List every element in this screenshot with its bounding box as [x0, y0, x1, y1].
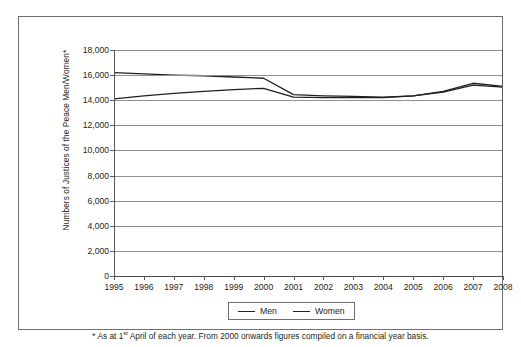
- y-tick-label: 8,000: [87, 171, 109, 181]
- line-swatch-icon: [293, 311, 310, 312]
- y-tick-label: 12,000: [83, 120, 109, 130]
- x-tick-label: 1995: [104, 282, 123, 292]
- gridline: [114, 50, 503, 51]
- gridline: [114, 226, 503, 227]
- x-tick-mark: [264, 276, 265, 280]
- x-tick-mark: [443, 276, 444, 280]
- x-tick-mark: [294, 276, 295, 280]
- x-tick-mark: [114, 276, 115, 280]
- x-tick-label: 2001: [284, 282, 303, 292]
- y-tick-label: 4,000: [87, 221, 109, 231]
- x-tick-label: 2000: [254, 282, 273, 292]
- x-tick-mark: [204, 276, 205, 280]
- plot-inner: 02,0004,0006,0008,00010,00012,00014,0001…: [114, 50, 503, 276]
- gridline: [114, 150, 503, 151]
- y-tick-label: 18,000: [83, 45, 109, 55]
- gridline: [114, 201, 503, 202]
- x-tick-mark: [234, 276, 235, 280]
- legend-label-men: Men: [260, 306, 277, 316]
- y-tick-label: 16,000: [83, 70, 109, 80]
- x-tick-label: 2008: [493, 282, 512, 292]
- legend-label-women: Women: [315, 306, 345, 316]
- chart-figure: Numbers of Justices of the Peace Men/Wom…: [0, 0, 521, 347]
- series-lines: [114, 50, 503, 276]
- gridline: [114, 176, 503, 177]
- x-tick-label: 2006: [434, 282, 453, 292]
- x-tick-label: 1996: [134, 282, 153, 292]
- x-tick-mark: [503, 276, 504, 280]
- gridline: [114, 251, 503, 252]
- x-tick-label: 2005: [404, 282, 423, 292]
- y-tick-label: 14,000: [83, 95, 109, 105]
- footnote-suffix: April of each year. From 2000 onwards fi…: [128, 331, 429, 341]
- footnote-prefix: * As at 1: [92, 331, 123, 341]
- chart-footnote: * As at 1st April of each year. From 200…: [19, 330, 502, 341]
- y-tick-label: 10,000: [83, 145, 109, 155]
- chart-legend: Men Women: [228, 302, 355, 320]
- x-tick-mark: [413, 276, 414, 280]
- legend-entry-women[interactable]: Women: [293, 306, 345, 316]
- gridline: [114, 75, 503, 76]
- x-tick-label: 2002: [314, 282, 333, 292]
- y-tick-label: 6,000: [87, 196, 109, 206]
- y-tick-label: 0: [104, 271, 109, 281]
- x-tick-mark: [174, 276, 175, 280]
- x-tick-mark: [353, 276, 354, 280]
- gridline: [114, 125, 503, 126]
- x-tick-label: 1998: [194, 282, 213, 292]
- y-axis-title: Numbers of Justices of the Peace Men/Wom…: [61, 20, 71, 260]
- x-tick-label: 2003: [344, 282, 363, 292]
- chart-border: Numbers of Justices of the Peace Men/Wom…: [18, 16, 503, 330]
- y-axis-line: [114, 50, 115, 276]
- x-tick-label: 2004: [374, 282, 393, 292]
- gridline: [114, 100, 503, 101]
- x-tick-label: 2007: [464, 282, 483, 292]
- line-swatch-icon: [238, 311, 255, 312]
- x-tick-mark: [473, 276, 474, 280]
- gridline: [114, 276, 503, 277]
- series-line-women: [114, 83, 503, 99]
- x-tick-mark: [323, 276, 324, 280]
- x-tick-label: 1999: [224, 282, 243, 292]
- x-tick-mark: [144, 276, 145, 280]
- x-tick-mark: [383, 276, 384, 280]
- plot-area: 02,0004,0006,0008,00010,00012,00014,0001…: [114, 50, 503, 276]
- y-tick-label: 2,000: [87, 246, 109, 256]
- x-tick-label: 1997: [164, 282, 183, 292]
- plot-right-border: [502, 50, 503, 276]
- legend-entry-men[interactable]: Men: [238, 306, 277, 316]
